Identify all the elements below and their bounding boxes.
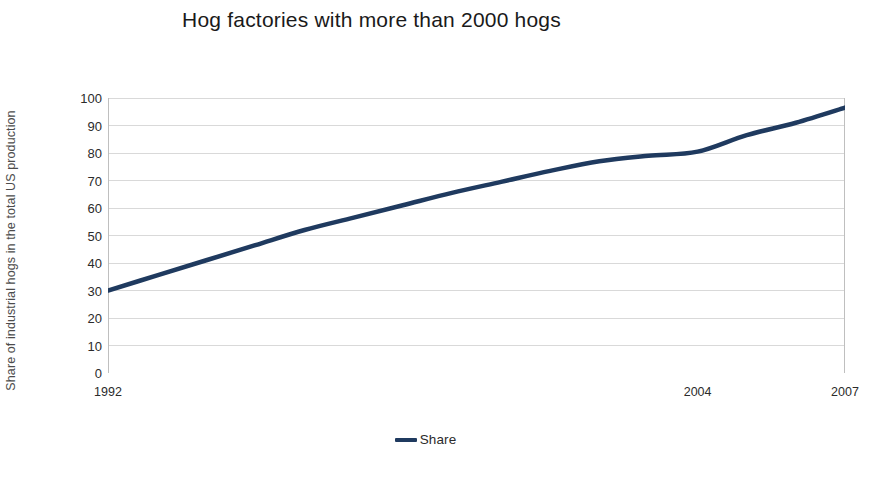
x-axis-tick-label: 1992 (94, 385, 122, 399)
chart-title: Hog factories with more than 2000 hogs (0, 8, 883, 32)
chart-title-text: Hog factories with more than 2000 hogs (182, 8, 561, 32)
legend-item-label: Share (420, 432, 457, 447)
y-axis-tick-label: 80 (88, 146, 102, 161)
y-axis-tick-label: 0 (95, 366, 102, 381)
y-axis-title: Share of industrial hogs in the total US… (0, 0, 22, 477)
y-axis-tick-label: 60 (88, 201, 102, 216)
y-axis-tick-label: 20 (88, 311, 102, 326)
y-axis-tick-label: 50 (88, 228, 102, 243)
plot-svg (108, 98, 845, 373)
y-axis-title-text: Share of industrial hogs in the total US… (4, 110, 18, 390)
legend-line-marker-icon (395, 438, 417, 442)
x-axis-tick-label: 2007 (831, 385, 859, 399)
chart-legend: Share (0, 432, 883, 447)
y-axis-tick-label: 30 (88, 283, 102, 298)
chart-container: Hog factories with more than 2000 hogs S… (0, 0, 883, 477)
y-axis-tick-label: 90 (88, 118, 102, 133)
y-axis-tick-labels: 1009080706050403020100 (56, 98, 102, 373)
x-axis-tick-labels: 199220042007 (0, 385, 883, 405)
y-axis-tick-label: 100 (80, 91, 102, 106)
x-axis-tick-label: 2004 (684, 385, 712, 399)
y-axis-tick-label: 10 (88, 338, 102, 353)
y-axis-tick-label: 70 (88, 173, 102, 188)
plot-area (108, 98, 845, 373)
y-axis-tick-label: 40 (88, 256, 102, 271)
legend-item-share[interactable]: Share (395, 432, 457, 447)
